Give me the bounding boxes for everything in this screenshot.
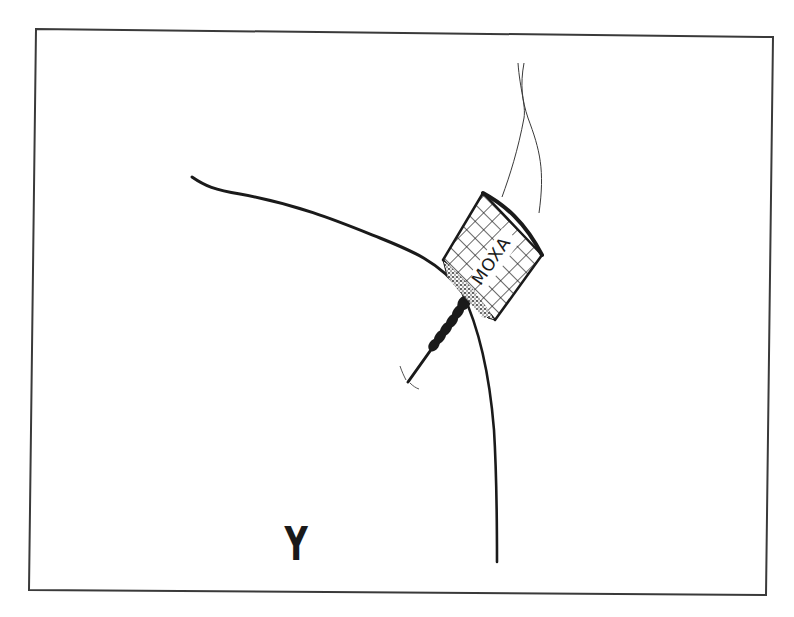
moxibustion-illustration: MOXA Y: [0, 0, 794, 617]
border-frame: [29, 29, 773, 595]
shoulder-contour: [192, 177, 462, 292]
arm-contour: [462, 292, 497, 562]
moxa-cylinder: MOXA: [443, 193, 542, 320]
acupuncture-needle: [400, 287, 478, 389]
insertion-mark: [410, 383, 419, 389]
insertion-mark: [400, 366, 406, 380]
smoke-wisps: [502, 63, 542, 213]
y-mark: Y: [284, 517, 309, 570]
